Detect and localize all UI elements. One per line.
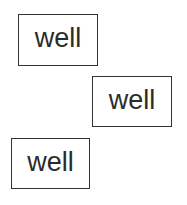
word-label: well — [35, 25, 82, 52]
word-label: well — [109, 87, 156, 114]
word-box-1: well — [18, 14, 98, 66]
word-box-3: well — [11, 138, 90, 189]
word-box-2: well — [92, 76, 172, 127]
word-label: well — [27, 149, 74, 176]
